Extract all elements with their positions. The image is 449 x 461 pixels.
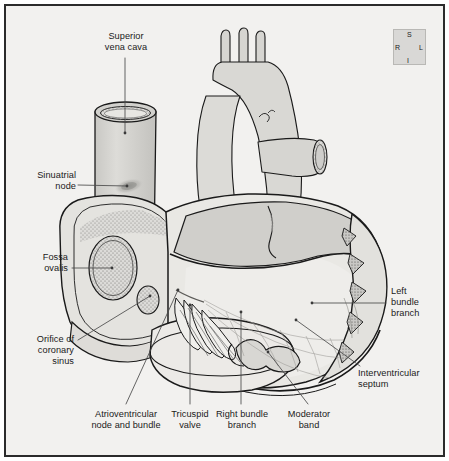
label-left-bundle-branch: Left bundle branch [391, 286, 447, 320]
anatomy-figure: Superior vena cava Sinuatrial node Fossa… [0, 0, 449, 461]
label-right-bundle-branch: Right bundle branch [205, 409, 279, 431]
compass-right-letter: R [395, 44, 400, 51]
compass-left-letter: L [419, 44, 423, 51]
label-superior-vena-cava: Superior vena cava [86, 31, 166, 53]
compass-inferior-letter: I [407, 57, 409, 64]
great-vessels [197, 28, 327, 210]
label-sinuatrial-node: Sinuatrial node [8, 170, 76, 192]
label-orifice-coronary-sinus: Orifice of coronary sinus [6, 334, 74, 368]
heart-illustration [0, 0, 449, 461]
label-fossa-ovalis: Fossa ovalis [8, 252, 68, 274]
compass-superior-letter: S [407, 31, 412, 38]
label-moderator-band: Moderator band [278, 409, 340, 431]
label-interventricular-septum: Interventricular septum [358, 368, 444, 390]
